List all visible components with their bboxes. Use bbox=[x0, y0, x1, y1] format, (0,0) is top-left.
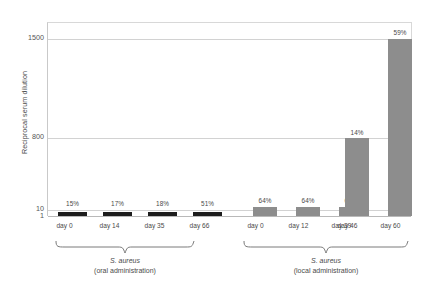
axis-baseline bbox=[48, 216, 411, 217]
group-brace-oral bbox=[55, 240, 195, 254]
group-brace-local bbox=[243, 240, 409, 254]
y-tick-label-1500: 1500 bbox=[14, 34, 44, 42]
y-tick-label-800: 800 bbox=[14, 133, 44, 141]
group-caption-oral-administration: (oral administration) bbox=[55, 266, 195, 276]
plot-area: 15% 17% 18% 51% 64% 64% 61% 14% 59% bbox=[47, 22, 412, 216]
y-tick-label-1: 1 bbox=[14, 212, 44, 220]
bar-oral-day-14 bbox=[103, 212, 132, 216]
bar-label-local-day-0: 64% bbox=[251, 197, 279, 204]
group-caption-oral-species: S. aureus bbox=[55, 256, 195, 266]
chart-container: Reciprocal serum dilution 1500 800 10 1 … bbox=[0, 0, 423, 288]
y-axis-tick-labels: 1500 800 10 1 bbox=[10, 0, 44, 288]
bar-label-local-day-60: 59% bbox=[385, 29, 415, 36]
group-caption-local: S. aureus (local administration) bbox=[243, 256, 409, 275]
group-caption-local-species: S. aureus bbox=[243, 256, 409, 266]
x-tick-label-oral-day-0: day 0 bbox=[42, 222, 87, 229]
bar-label-oral-day-0: 15% bbox=[58, 200, 87, 207]
bar-label-local-day-46: 14% bbox=[342, 129, 372, 136]
bar-label-oral-day-35: 18% bbox=[148, 200, 177, 207]
x-tick-label-oral-day-14: day 14 bbox=[87, 222, 132, 229]
bar-label-local-day-12: 64% bbox=[294, 197, 322, 204]
x-tick-label-local-day-0: day 0 bbox=[234, 222, 277, 229]
bar-local-day-0 bbox=[253, 207, 277, 216]
bar-local-day-12 bbox=[296, 207, 320, 216]
x-tick-label-oral-day-66: day 66 bbox=[177, 222, 222, 229]
group-caption-local-administration: (local administration) bbox=[243, 266, 409, 276]
bar-oral-day-35 bbox=[148, 212, 177, 216]
bar-label-oral-day-66: 51% bbox=[193, 200, 222, 207]
bar-label-oral-day-14: 17% bbox=[103, 200, 132, 207]
bar-oral-day-66 bbox=[193, 212, 222, 216]
x-tick-label-local-day-46: day 46 bbox=[326, 222, 369, 229]
x-tick-label-local-day-60: day 60 bbox=[369, 222, 412, 229]
bar-local-day-46 bbox=[345, 138, 369, 216]
x-tick-label-local-day-12: day 12 bbox=[277, 222, 320, 229]
bar-local-day-60 bbox=[388, 39, 412, 216]
bar-oral-day-0 bbox=[58, 212, 87, 216]
group-caption-oral: S. aureus (oral administration) bbox=[55, 256, 195, 275]
gridline-1500 bbox=[48, 39, 411, 40]
x-tick-label-oral-day-35: day 35 bbox=[132, 222, 177, 229]
